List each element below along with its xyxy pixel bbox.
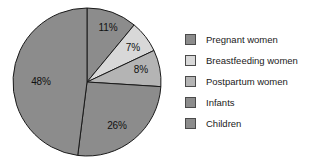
legend-item[interactable]: Breastfeeding women [185,54,325,67]
legend-item-label: Breastfeeding women [206,55,298,66]
pie-slice-value-label: 8% [134,64,148,75]
legend-item-label: Children [206,118,241,129]
chart-legend: Pregnant womenBreastfeeding womenPostpar… [185,33,325,138]
pie-slice-value-label: 11% [99,22,118,33]
legend-item[interactable]: Pregnant women [185,33,325,46]
legend-swatch-children [185,118,196,129]
pie-chart-figure: 11%7%8%26%48% Pregnant womenBreastfeedin… [0,0,326,164]
legend-swatch-infants [185,97,196,108]
pie-slice-value-label: 26% [107,120,127,131]
legend-item[interactable]: Infants [185,96,325,109]
pie-slice-value-label: 48% [31,76,51,87]
legend-item-label: Postpartum women [206,76,288,87]
pie-slice-value-label: 7% [126,42,140,53]
legend-item[interactable]: Postpartum women [185,75,325,88]
pie-chart-svg [0,0,176,164]
pie-chart-area: 11%7%8%26%48% [0,0,176,164]
legend-item[interactable]: Children [185,117,325,130]
legend-swatch-pregnant-women [185,34,196,45]
legend-item-label: Pregnant women [206,34,278,45]
legend-swatch-postpartum-women [185,76,196,87]
legend-swatch-breastfeeding-women [185,55,196,66]
legend-item-label: Infants [206,97,235,108]
